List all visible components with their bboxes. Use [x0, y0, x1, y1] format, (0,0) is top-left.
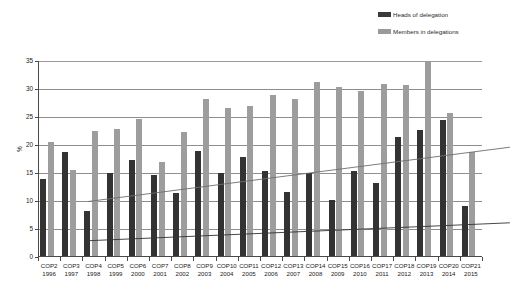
bar-group: [328, 61, 350, 256]
bar-members-in-delegations: [48, 142, 54, 256]
bar-group: [439, 61, 461, 256]
x-axis-tick: [371, 257, 372, 261]
x-axis-tick: [415, 257, 416, 261]
bar-group: [172, 61, 194, 256]
bar-heads-of-delegation: [151, 175, 157, 256]
y-axis-tick-label: 15: [16, 170, 33, 176]
bar-members-in-delegations: [203, 99, 209, 256]
bar-heads-of-delegation: [40, 179, 46, 256]
bar-heads-of-delegation: [173, 193, 179, 256]
bar-members-in-delegations: [314, 82, 320, 256]
x-axis-tick: [171, 257, 172, 261]
bar-heads-of-delegation: [195, 151, 201, 256]
bar-heads-of-delegation: [351, 171, 357, 256]
bar-group: [128, 61, 150, 256]
y-axis-tick-label: 10: [16, 198, 33, 204]
bar-members-in-delegations: [136, 119, 142, 256]
y-axis-tick-label: 25: [16, 114, 33, 120]
x-axis-tick: [482, 257, 483, 261]
bar-members-in-delegations: [70, 170, 76, 256]
x-axis-tick: [127, 257, 128, 261]
y-axis-tick-label: 0: [16, 254, 33, 260]
bar-members-in-delegations: [403, 85, 409, 256]
x-axis-tick: [282, 257, 283, 261]
bar-members-in-delegations: [447, 113, 453, 256]
bar-group: [283, 61, 305, 256]
bar-members-in-delegations: [425, 62, 431, 256]
bar-heads-of-delegation: [395, 137, 401, 256]
x-axis-tick: [193, 257, 194, 261]
bar-heads-of-delegation: [329, 200, 335, 256]
bar-members-in-delegations: [225, 108, 231, 256]
x-axis-tick-label: COP212015: [456, 262, 486, 277]
y-axis-tick-label: 5: [16, 226, 33, 232]
bar-group: [394, 61, 416, 256]
bar-heads-of-delegation: [107, 173, 113, 256]
bar-heads-of-delegation: [240, 157, 246, 256]
x-axis-tick: [327, 257, 328, 261]
x-axis-tick: [349, 257, 350, 261]
x-axis-tick: [38, 257, 39, 261]
bar-heads-of-delegation: [373, 183, 379, 256]
x-axis-tick: [260, 257, 261, 261]
bar-members-in-delegations: [114, 129, 120, 256]
bar-members-in-delegations: [181, 132, 187, 256]
bar-group: [150, 61, 172, 256]
bar-group: [239, 61, 261, 256]
x-axis-tick: [149, 257, 150, 261]
bar-members-in-delegations: [92, 131, 98, 256]
bar-members-in-delegations: [469, 152, 475, 256]
legend-item-heads-of-delegation: Heads of delegation: [378, 6, 492, 23]
bar-group: [261, 61, 283, 256]
bar-group: [61, 61, 83, 256]
bar-heads-of-delegation: [284, 192, 290, 256]
x-axis-tick: [238, 257, 239, 261]
bar-group: [416, 61, 438, 256]
bar-heads-of-delegation: [306, 173, 312, 256]
bar-heads-of-delegation: [84, 211, 90, 256]
bar-group: [350, 61, 372, 256]
bar-group: [194, 61, 216, 256]
bar-heads-of-delegation: [262, 171, 268, 256]
legend-swatch-icon-members: [378, 29, 391, 34]
bar-members-in-delegations: [358, 91, 364, 256]
x-axis-tick: [304, 257, 305, 261]
bar-heads-of-delegation: [129, 160, 135, 256]
legend-label-heads: Heads of delegation: [393, 11, 448, 18]
legend-label-members: Members in delegations: [393, 28, 459, 35]
bar-heads-of-delegation: [440, 120, 446, 256]
bar-group: [39, 61, 61, 256]
bar-members-in-delegations: [336, 87, 342, 256]
y-axis-tick-label: 35: [16, 58, 33, 64]
x-axis-tick: [82, 257, 83, 261]
x-label-year: 2015: [456, 270, 486, 278]
bar-heads-of-delegation: [218, 173, 224, 256]
bar-members-in-delegations: [292, 99, 298, 256]
bar-members-in-delegations: [159, 162, 165, 256]
bar-group: [372, 61, 394, 256]
bar-group: [217, 61, 239, 256]
x-axis-tick: [460, 257, 461, 261]
bar-group: [461, 61, 483, 256]
x-axis-ticks: [38, 257, 482, 261]
legend-swatch-icon-heads: [378, 12, 391, 17]
x-axis-tick: [105, 257, 106, 261]
bar-members-in-delegations: [381, 84, 387, 256]
x-axis-tick: [438, 257, 439, 261]
bar-members-in-delegations: [247, 106, 253, 256]
chart-legend: Heads of delegation Members in delegatio…: [378, 6, 492, 40]
x-axis-tick: [60, 257, 61, 261]
x-axis-tick: [393, 257, 394, 261]
x-label-cop: COP21: [456, 262, 486, 270]
x-axis-tick: [216, 257, 217, 261]
bar-group: [83, 61, 105, 256]
bar-group: [106, 61, 128, 256]
bar-series-layer: [39, 61, 482, 256]
y-axis-tick-label: 20: [16, 142, 33, 148]
bar-group: [305, 61, 327, 256]
plot-area: [38, 61, 482, 257]
y-axis-tick-label: 30: [16, 86, 33, 92]
bar-members-in-delegations: [270, 95, 276, 256]
x-axis-labels: COP21996COP31997COP41998COP51999COP62000…: [38, 262, 482, 286]
